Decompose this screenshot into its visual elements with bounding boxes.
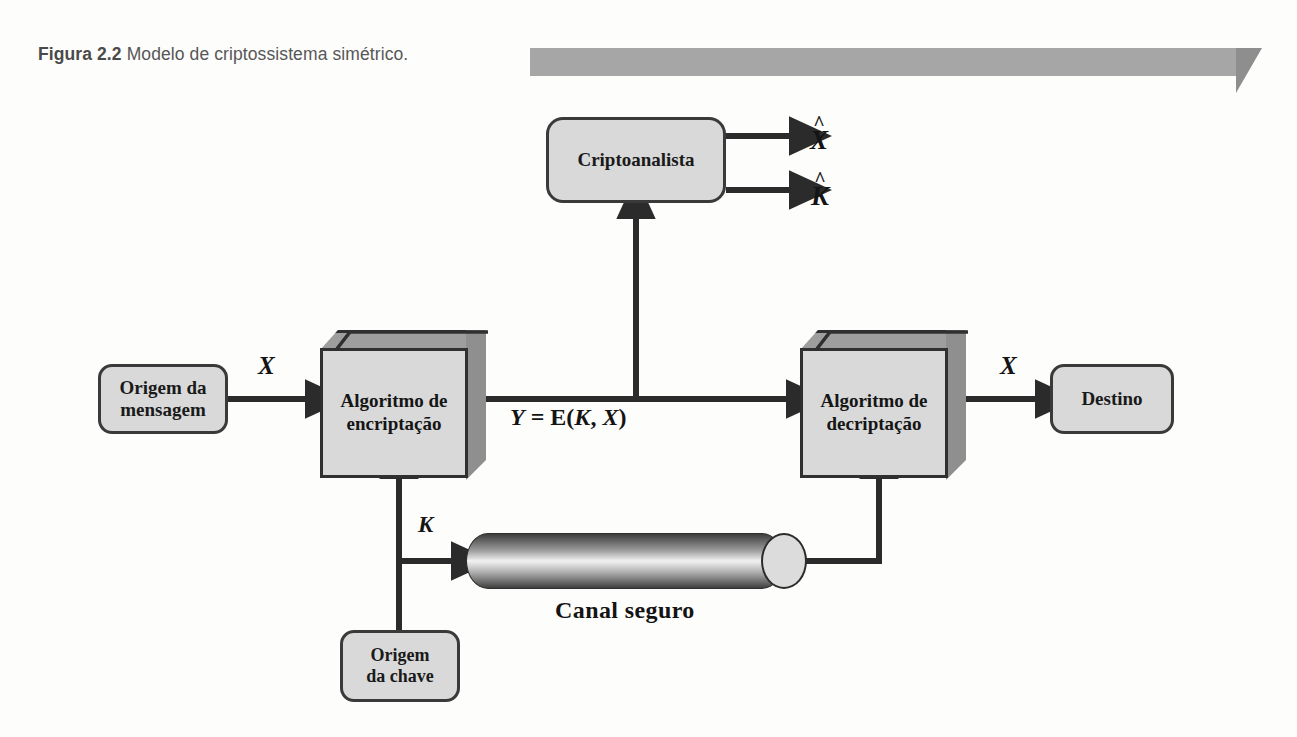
destination-box[interactable]: Destino xyxy=(1050,364,1174,434)
message-source-label: Origem da mensagem xyxy=(119,377,206,421)
encryption-box-right-face xyxy=(466,330,488,480)
arrow-secure-channel-to-decryption xyxy=(806,472,879,561)
secure-channel-cylinder xyxy=(466,533,806,589)
encryption-box-front-face: Algoritmo de encriptação xyxy=(320,348,468,478)
encryption-algorithm-label: Algoritmo de encriptação xyxy=(340,390,447,436)
decryption-box-right-face xyxy=(946,330,968,480)
estimated-plaintext-symbol: X xyxy=(810,125,828,155)
destination-label: Destino xyxy=(1081,388,1142,410)
cylinder-body xyxy=(466,533,784,589)
cylinder-end-cap xyxy=(761,533,807,589)
cryptanalyst-box[interactable]: Criptoanalista xyxy=(546,117,726,203)
key-source-label: Origem da chave xyxy=(366,645,434,687)
label-ciphertext-equation: Y = E(K, X) xyxy=(510,404,626,431)
label-plaintext-in: X xyxy=(258,352,275,380)
label-plaintext-out: X xyxy=(1000,352,1017,380)
decryption-algorithm-label: Algoritmo de decriptação xyxy=(820,390,927,436)
cryptanalyst-label: Criptoanalista xyxy=(577,149,694,171)
label-estimated-key: ^ K xyxy=(811,173,829,207)
figure-page: Figura 2.2 Modelo de criptossistema simé… xyxy=(0,0,1297,737)
message-source-box[interactable]: Origem da mensagem xyxy=(98,364,228,434)
label-secure-channel: Canal seguro xyxy=(555,597,695,624)
estimated-key-symbol: K xyxy=(811,181,829,211)
key-source-box[interactable]: Origem da chave xyxy=(340,630,460,702)
label-key: K xyxy=(418,512,433,538)
label-estimated-plaintext: ^ X xyxy=(810,117,828,151)
decryption-box-front-face: Algoritmo de decriptação xyxy=(800,348,948,478)
